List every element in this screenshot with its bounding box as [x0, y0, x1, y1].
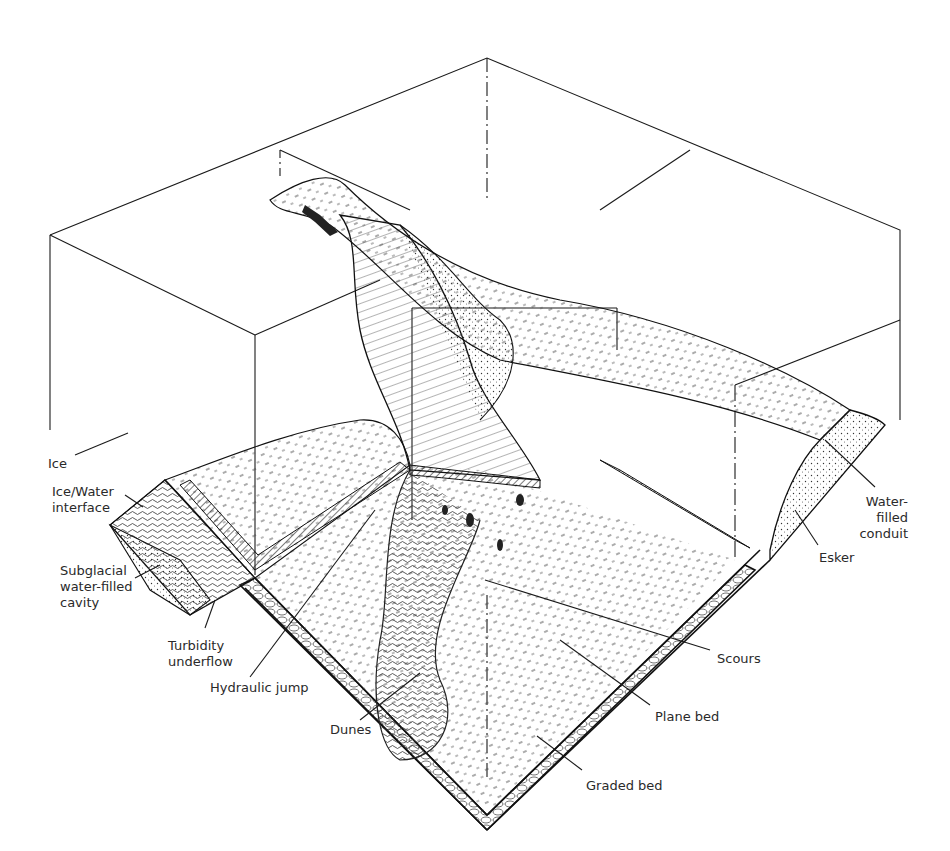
label-ice: Ice [48, 456, 67, 472]
label-graded-bed: Graded bed [586, 778, 663, 794]
label-water-filled-conduit: Water- filled conduit [858, 494, 908, 542]
label-turbidity-underflow: Turbidity underflow [168, 638, 233, 670]
label-dunes: Dunes [330, 722, 371, 738]
label-plane-bed: Plane bed [655, 709, 719, 725]
label-subglacial-cavity: Subglacial water-filled cavity [60, 563, 133, 611]
block-diagram [0, 0, 950, 851]
label-scours: Scours [717, 651, 761, 667]
label-ice-water-interface: Ice/Water interface [52, 484, 114, 516]
label-hydraulic-jump: Hydraulic jump [210, 680, 309, 696]
label-esker: Esker [819, 550, 854, 566]
